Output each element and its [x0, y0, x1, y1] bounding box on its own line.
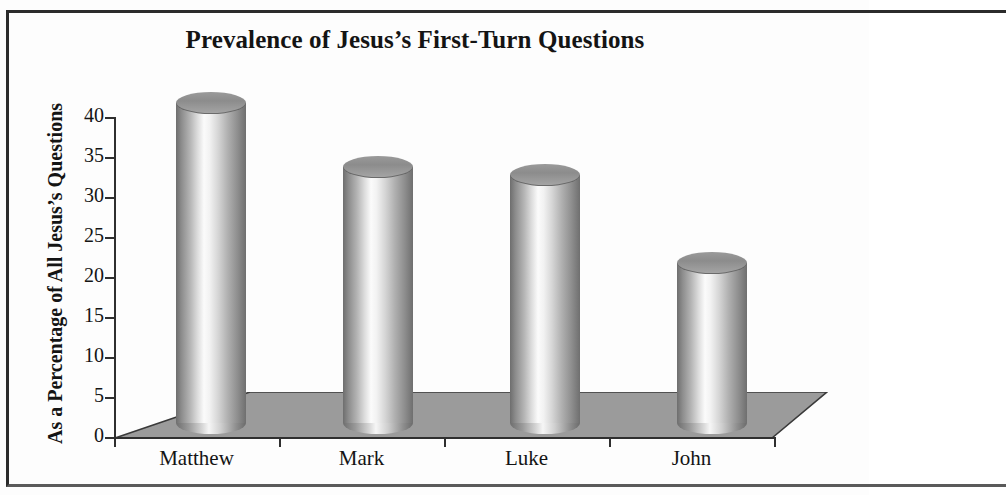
x-axis-tick-mark — [774, 437, 776, 447]
y-axis-tick-label: 30 — [58, 185, 104, 205]
chart-title: Prevalence of Jesus’s First-Turn Questio… — [0, 26, 830, 54]
y-axis-tick-mark — [105, 157, 114, 159]
y-axis-tick-label: 5 — [58, 385, 104, 405]
y-axis-line — [114, 117, 116, 438]
bar-body — [343, 167, 413, 423]
y-axis-tick-label: 0 — [58, 425, 104, 445]
y-axis-tick-mark — [105, 237, 114, 239]
x-axis-category-label: Luke — [444, 446, 609, 471]
bar-top-ellipse — [343, 156, 413, 178]
bar-body — [510, 175, 580, 423]
bar-top-ellipse — [176, 92, 246, 114]
y-axis-tick-label: 25 — [58, 225, 104, 245]
bar-body — [176, 103, 246, 423]
bar-cylinder — [343, 156, 413, 434]
y-axis-tick-label: 35 — [58, 145, 104, 165]
y-axis-tick-mark — [105, 197, 114, 199]
y-axis-tick-mark — [105, 117, 114, 119]
x-axis-category-label: Mark — [279, 446, 444, 471]
bar-top-ellipse — [510, 164, 580, 186]
x-axis-category-label: Matthew — [114, 446, 279, 471]
bar-cylinder — [176, 92, 246, 434]
bar-cylinder — [677, 252, 747, 434]
bar-cylinder — [510, 164, 580, 434]
y-axis-tick-label: 15 — [58, 305, 104, 325]
bar-body — [677, 263, 747, 423]
y-axis-tick-mark — [105, 357, 114, 359]
y-axis-tick-label: 40 — [58, 105, 104, 125]
bar-top-ellipse — [677, 252, 747, 274]
y-axis-tick-label: 10 — [58, 345, 104, 365]
y-axis-tick-mark — [105, 277, 114, 279]
y-axis-tick-label: 20 — [58, 265, 104, 285]
y-axis-tick-mark — [105, 317, 114, 319]
x-axis-category-label: John — [609, 446, 774, 471]
